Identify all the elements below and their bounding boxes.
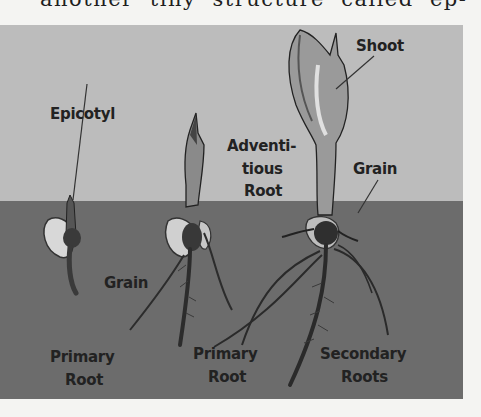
label-primary-root-mid-line1: Primary [193,344,257,364]
label-secondary-roots-line2: Roots [341,367,388,387]
label-grain-left: Grain [104,273,148,293]
label-adventitious-root-line2: tious [242,159,283,179]
label-primary-root-left-line2: Root [65,370,103,390]
label-epicotyl: Epicotyl [50,104,115,124]
label-adventitious-root-line1: Adventi- [227,136,296,156]
label-adventitious-root-line3: Root [244,181,282,201]
page-top-text: another tiny structure called ep- [40,0,467,11]
label-secondary-roots-line1: Secondary [320,344,406,364]
label-primary-root-mid-line2: Root [208,367,246,387]
label-primary-root-left-line1: Primary [50,347,114,367]
seedling-illustration [0,25,463,399]
seedling-germination-figure: Epicotyl Shoot Adventi- tious Root Grain… [0,25,463,399]
label-shoot: Shoot [356,36,404,56]
label-grain-right: Grain [353,159,397,179]
